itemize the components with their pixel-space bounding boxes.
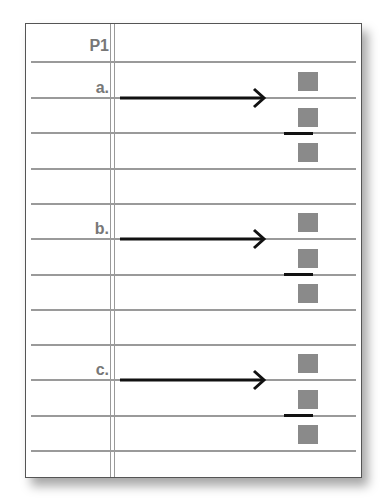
square-block: [298, 425, 318, 444]
rule-line: [31, 168, 356, 170]
margin-line-1: [110, 24, 111, 477]
divider-bar: [284, 273, 313, 276]
square-block: [298, 143, 318, 162]
header-label: P1: [89, 38, 109, 54]
margin-line-2: [114, 24, 115, 477]
divider-bar: [284, 132, 313, 135]
item-label-a: a.: [96, 80, 109, 96]
item-label-c: c.: [96, 362, 109, 378]
rule-line: [31, 61, 356, 63]
arrow-right-icon: [120, 227, 270, 251]
square-block: [298, 284, 318, 303]
arrow-right-icon: [120, 86, 270, 110]
square-block: [298, 249, 318, 268]
square-block: [298, 108, 318, 127]
divider-bar: [284, 414, 313, 417]
item-label-b: b.: [95, 221, 109, 237]
rule-line: [31, 309, 356, 311]
arrow-right-icon: [120, 368, 270, 392]
square-block: [298, 213, 318, 232]
square-block: [298, 72, 318, 91]
square-block: [298, 354, 318, 373]
rule-line: [31, 344, 356, 346]
lined-sheet: P1 a. b. c.: [25, 23, 362, 478]
rule-line: [31, 203, 356, 205]
square-block: [298, 390, 318, 409]
rule-line: [31, 450, 356, 452]
